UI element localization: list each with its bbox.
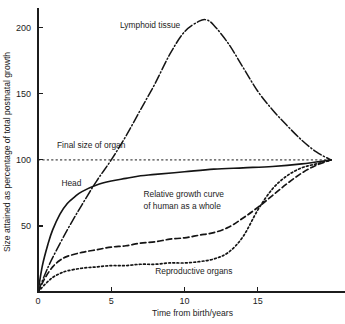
y-tick-label: 100 — [16, 155, 31, 165]
human-whole-label-line2: of human as a whole — [144, 201, 222, 211]
y-tick-label: 50 — [21, 221, 31, 231]
human-whole-label-line1: Relative growth curve — [144, 189, 225, 199]
x-axis-title: Time from birth/years — [152, 308, 233, 318]
y-tick-label: 200 — [16, 23, 31, 33]
lymphoid-tissue-label: Lymphoid tissue — [120, 20, 181, 30]
axis-layer — [38, 8, 345, 292]
x-tick-label: 10 — [179, 296, 189, 306]
x-tick-label: 15 — [253, 296, 263, 306]
final-size-of-organ-label: Final size of organ — [57, 140, 126, 150]
tick-label-layer: 50100150200051015 — [16, 23, 263, 305]
reproductive-organs-label: Reproductive organs — [155, 266, 232, 276]
chart-canvas: 50100150200051015 Lymphoid tissueFinal s… — [0, 0, 345, 324]
annotation-layer: Lymphoid tissueFinal size of organHeadRe… — [57, 20, 232, 276]
head-label: Head — [61, 178, 81, 188]
curve-layer — [38, 19, 331, 292]
curve-lymphoid-tissue — [38, 19, 331, 292]
y-axis-title: Size attained as percentage of total pos… — [2, 52, 12, 252]
growth-curve-chart: 50100150200051015 Lymphoid tissueFinal s… — [0, 0, 345, 324]
axis-title-layer: Time from birth/yearsSize attained as pe… — [2, 52, 233, 318]
x-tick-label: 5 — [109, 296, 114, 306]
y-tick-label: 150 — [16, 89, 31, 99]
x-tick-label: 0 — [35, 296, 40, 306]
